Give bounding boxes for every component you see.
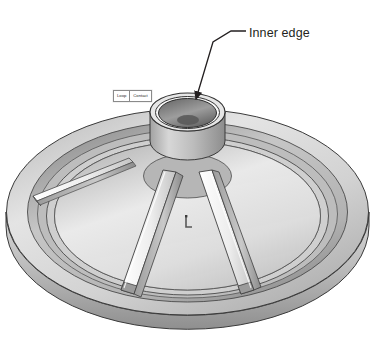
hub-top-face [150,93,225,131]
outer-rim-top [7,109,369,315]
bore-floor [177,115,199,125]
model-canvas [0,0,375,349]
hub-bore [159,99,217,128]
tooltip-cell-contact: Contact [129,91,150,101]
rib-left [121,170,183,297]
central-hub [150,112,225,160]
inner-edge-leader [0,0,375,349]
rib-rear-left [33,158,136,206]
cad-viewport: Inner edge Loop Contact [0,0,375,349]
dish-rear-shadow [55,142,321,216]
rim-groove-outer [28,122,348,302]
rib-right [199,170,261,294]
clipped-title-text [0,0,375,3]
inner-edge-ring [156,97,220,129]
tooltip-cell-loop: Loop [114,91,129,101]
coordinate-axes-icon [184,214,194,230]
bore-bottom-shadow [162,119,213,127]
loop-contact-tooltip[interactable]: Loop Contact [113,90,152,102]
hub-base-blend [144,154,232,198]
inner-edge-label: Inner edge [249,26,310,40]
